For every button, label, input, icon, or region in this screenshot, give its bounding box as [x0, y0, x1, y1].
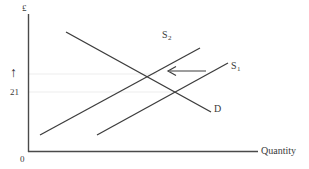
price-increase-arrow-icon: ↑: [10, 66, 17, 80]
demand-curve: [66, 32, 211, 112]
origin-label: 0: [20, 155, 25, 164]
axes: [28, 14, 258, 152]
gridlines: [28, 74, 174, 92]
supply-curve-s2-label: S2: [162, 30, 171, 40]
price-tick-label-21: 21: [10, 88, 19, 97]
shift-arrow: [168, 67, 206, 76]
supply-curve-s1-label-subscript: 1: [237, 65, 241, 73]
supply-curve-s1-label: S1: [231, 61, 240, 71]
supply-curve-s1-label-text: S: [231, 60, 237, 71]
supply-curve-s2-label-text: S: [162, 29, 168, 40]
supply-curve-s2-label-subscript: 2: [168, 34, 172, 42]
supply-demand-diagram: £ Quantity 0 ↑ 21 S2 S1 D: [0, 0, 309, 169]
plot-area: [0, 0, 309, 169]
demand-curve-label: D: [214, 104, 221, 114]
y-axis-label: £: [22, 4, 27, 13]
x-axis-label: Quantity: [261, 146, 296, 156]
